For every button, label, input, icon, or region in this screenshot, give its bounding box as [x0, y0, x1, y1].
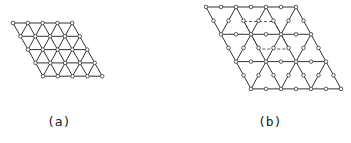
- lattice-node: [302, 46, 306, 50]
- lattice-node: [309, 87, 313, 91]
- lattice-node: [302, 19, 306, 23]
- lattice-node: [264, 33, 268, 37]
- lattice-node: [287, 73, 291, 77]
- lattice-nodes: [204, 5, 343, 91]
- lattice-node: [41, 74, 45, 78]
- lattice-node: [332, 73, 336, 77]
- lattice-node: [48, 35, 52, 39]
- lattice-node: [242, 73, 246, 77]
- lattice-node: [34, 35, 38, 39]
- lattice-node: [264, 87, 268, 91]
- lattice-node: [339, 87, 343, 91]
- lattice-node: [49, 61, 53, 65]
- lattice-node: [11, 21, 15, 25]
- lattice-node: [70, 21, 74, 25]
- lattice-node: [227, 46, 231, 50]
- lattice-node: [249, 5, 253, 9]
- lattice-node: [86, 74, 90, 78]
- lattice-node: [26, 48, 30, 52]
- lattice-node: [71, 48, 75, 52]
- lattice-node: [227, 19, 231, 23]
- lattice-node: [257, 73, 261, 77]
- lattice-node: [26, 21, 30, 25]
- panel-b-label: (b): [258, 114, 281, 129]
- lattice-node: [219, 5, 223, 9]
- lattice-node: [272, 19, 276, 23]
- lattice-node: [294, 60, 298, 64]
- lattice-node: [294, 5, 298, 9]
- lattice-node: [63, 35, 67, 39]
- lattice-node: [34, 61, 38, 65]
- lattice-node: [234, 5, 238, 9]
- lattice-node: [41, 48, 45, 52]
- lattice-node: [41, 21, 45, 25]
- lattice-node: [272, 73, 276, 77]
- lattice-node: [78, 35, 82, 39]
- panel-a-label: (a): [47, 114, 70, 129]
- lattice-node: [324, 87, 328, 91]
- lattice-node: [257, 19, 261, 23]
- lattice-node: [63, 61, 67, 65]
- lattice-node: [204, 5, 208, 9]
- lattice-node: [219, 33, 223, 37]
- lattice-node: [309, 60, 313, 64]
- lattice-node: [85, 48, 89, 52]
- lattice-node: [264, 60, 268, 64]
- lattice-node: [279, 5, 283, 9]
- lattice-node: [249, 87, 253, 91]
- lattice-node: [249, 33, 253, 37]
- lattice-node: [19, 35, 23, 39]
- lattice-node: [272, 46, 276, 50]
- lattice-node: [309, 33, 313, 37]
- lattice-node: [294, 87, 298, 91]
- lattice-node: [93, 61, 97, 65]
- lattice-node: [324, 60, 328, 64]
- lattice-node: [287, 46, 291, 50]
- lattice-node: [234, 33, 238, 37]
- lattice-node: [264, 5, 268, 9]
- kagome-lattice-diagram: [204, 5, 343, 91]
- lattice-node: [56, 48, 60, 52]
- lattice-node: [249, 60, 253, 64]
- lattice-node: [56, 21, 60, 25]
- lattice-node: [317, 73, 321, 77]
- lattice-node: [279, 33, 283, 37]
- lattice-node: [212, 19, 216, 23]
- lattice-node: [78, 61, 82, 65]
- lattice-node: [279, 87, 283, 91]
- lattice-node: [234, 60, 238, 64]
- lattice-nodes: [11, 21, 104, 78]
- lattice-node: [279, 60, 283, 64]
- lattice-node: [242, 19, 246, 23]
- triangular-lattice-diagram: [11, 21, 104, 78]
- lattice-node: [71, 74, 75, 78]
- lattice-node: [317, 46, 321, 50]
- lattice-node: [294, 33, 298, 37]
- lattice-node: [257, 46, 261, 50]
- lattice-node: [302, 73, 306, 77]
- lattice-node: [100, 74, 104, 78]
- lattice-node: [56, 74, 60, 78]
- lattice-node: [242, 46, 246, 50]
- lattice-node: [287, 19, 291, 23]
